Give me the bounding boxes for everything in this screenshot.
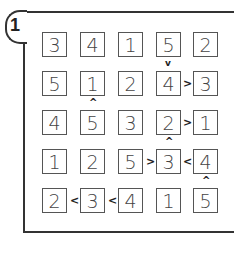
- grid-cell[interactable]: 2: [80, 149, 105, 174]
- up-caret-sign: ^: [202, 176, 210, 186]
- grid-cell[interactable]: 2: [42, 188, 67, 213]
- grid-cell[interactable]: 4: [193, 149, 218, 174]
- less-than-sign: <: [183, 156, 192, 167]
- up-caret-sign: ^: [89, 98, 97, 108]
- puzzle-number-badge: 1: [5, 10, 27, 44]
- puzzle-number: 1: [10, 15, 20, 36]
- grid-cell[interactable]: 1: [156, 188, 181, 213]
- grid-cell[interactable]: 3: [42, 32, 67, 57]
- grid-cell[interactable]: 1: [80, 71, 105, 96]
- grid-cell[interactable]: 5: [80, 110, 105, 135]
- grid-cell[interactable]: 3: [118, 110, 143, 135]
- grid-cell[interactable]: 2: [118, 71, 143, 96]
- grid-cell[interactable]: 3: [193, 71, 218, 96]
- grid-cell[interactable]: 2: [156, 110, 181, 135]
- grid-cell[interactable]: 3: [80, 188, 105, 213]
- greater-than-sign: >: [146, 156, 155, 167]
- up-caret-sign: ^: [165, 137, 173, 147]
- grid-cell[interactable]: 4: [118, 188, 143, 213]
- greater-than-sign: >: [183, 78, 192, 89]
- grid-cell[interactable]: 3: [156, 149, 181, 174]
- grid-cell[interactable]: 5: [193, 188, 218, 213]
- grid-cell[interactable]: 5: [42, 71, 67, 96]
- less-than-sign: <: [108, 195, 117, 206]
- grid-cell[interactable]: 1: [118, 32, 143, 57]
- greater-than-sign: >: [183, 117, 192, 128]
- grid-cell[interactable]: 5: [118, 149, 143, 174]
- grid-cell[interactable]: 4: [80, 32, 105, 57]
- grid-cell[interactable]: 4: [42, 110, 67, 135]
- grid-cell[interactable]: 4: [156, 71, 181, 96]
- grid-cell[interactable]: 2: [193, 32, 218, 57]
- less-than-sign: <: [70, 195, 79, 206]
- down-arrow-sign: v: [165, 59, 171, 68]
- grid-cell[interactable]: 1: [193, 110, 218, 135]
- grid-cell[interactable]: 5: [156, 32, 181, 57]
- grid-cell[interactable]: 1: [42, 149, 67, 174]
